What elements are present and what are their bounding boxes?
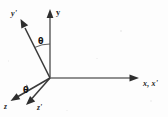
y-prime-axis-line bbox=[25, 28, 50, 78]
y-prime-axis-arrow-icon bbox=[21, 19, 29, 29]
z-axis-arrow-icon bbox=[11, 93, 21, 101]
y-prime-axis-label: y' bbox=[11, 10, 17, 18]
y-prime-axis-group bbox=[21, 19, 51, 78]
theta-upper-label: θ bbox=[38, 38, 44, 46]
theta-lower-label: θ bbox=[23, 87, 29, 95]
coordinate-system-svg bbox=[0, 0, 168, 117]
z-prime-axis-label: z' bbox=[37, 104, 42, 112]
x-axis-group bbox=[50, 74, 139, 81]
x-axis-arrow-icon bbox=[130, 74, 140, 81]
z-prime-axis-line bbox=[32, 78, 50, 99]
z-axis-label: z bbox=[4, 103, 7, 111]
y-axis-arrow-icon bbox=[47, 9, 54, 18]
y-axis-group bbox=[47, 9, 54, 78]
z-prime-axis-group bbox=[26, 78, 50, 105]
x-axes-label: x, x' bbox=[143, 80, 158, 88]
figure-root: y y' x, x' z z' θ θ bbox=[0, 0, 168, 117]
y-axis-label: y bbox=[56, 8, 60, 17]
